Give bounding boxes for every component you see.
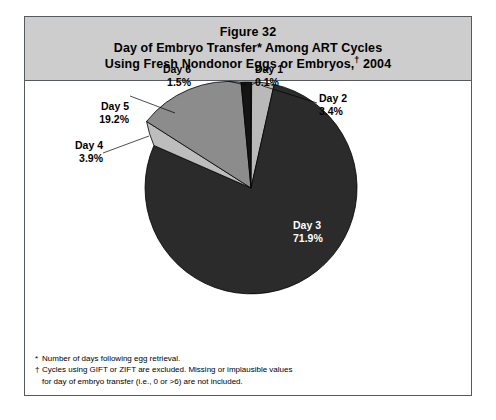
figure-header: Figure 32 Day of Embryo Transfer* Among …: [25, 17, 471, 81]
pie-label-day-6-pct: 1.5%: [135, 76, 191, 89]
pie-chart-plot-area: Day 3 71.9% Day 1 0.1% Day 2 3.4% Day 6 …: [25, 81, 471, 374]
pie-label-day-1-name: Day 1: [255, 63, 283, 75]
footnote-2-marker: †: [35, 364, 42, 376]
pie-label-day-3-name: Day 3: [293, 219, 321, 231]
pie-label-day-3-pct: 71.9%: [293, 232, 323, 245]
footnote-2-text: Cycles using GIFT or ZIFT are excluded. …: [42, 365, 292, 374]
pie-label-day-4-name: Day 4: [75, 139, 103, 151]
pie-label-day-6-name: Day 6: [163, 63, 191, 75]
footnote-2-continued: for day of embryo transfer (i.e., 0 or >…: [35, 376, 461, 388]
pie-label-day-5: Day 5 19.2%: [71, 100, 129, 126]
footnote-2-continued-text: for day of embryo transfer (i.e., 0 or >…: [42, 377, 243, 386]
pie-label-day-2-pct: 3.4%: [319, 105, 347, 118]
pie-label-day-5-pct: 19.2%: [71, 113, 129, 126]
pie-label-day-2: Day 2 3.4%: [319, 92, 347, 118]
figure-title-year: 2004: [359, 57, 391, 71]
pie-label-day-4: Day 4 3.9%: [45, 139, 103, 165]
pie-label-day-4-pct: 3.9%: [45, 152, 103, 165]
pie-label-day-3: Day 3 71.9%: [293, 219, 323, 245]
footnote-1: *Number of days following egg retrieval.: [35, 353, 461, 365]
footnote-2: †Cycles using GIFT or ZIFT are excluded.…: [35, 364, 461, 376]
footnotes: *Number of days following egg retrieval.…: [35, 353, 461, 388]
figure-title-line-3: Using Fresh Nondonor Eggs or Embryos,† 2…: [35, 56, 461, 72]
pie-label-day-2-name: Day 2: [319, 92, 347, 104]
figure-title-line-1: Figure 32: [35, 24, 461, 40]
footnote-1-text: Number of days following egg retrieval.: [42, 354, 180, 363]
pie-label-day-5-name: Day 5: [101, 100, 129, 112]
pie-label-day-6: Day 6 1.5%: [135, 63, 191, 89]
pie-label-day-1: Day 1 0.1%: [255, 63, 283, 89]
footnote-1-marker: *: [35, 353, 42, 365]
leader-line-day-4: [103, 136, 149, 153]
pie-label-day-1-pct: 0.1%: [255, 76, 283, 89]
figure-frame: Figure 32 Day of Embryo Transfer* Among …: [24, 16, 472, 396]
figure-title-line-2: Day of Embryo Transfer* Among ART Cycles: [35, 40, 461, 56]
